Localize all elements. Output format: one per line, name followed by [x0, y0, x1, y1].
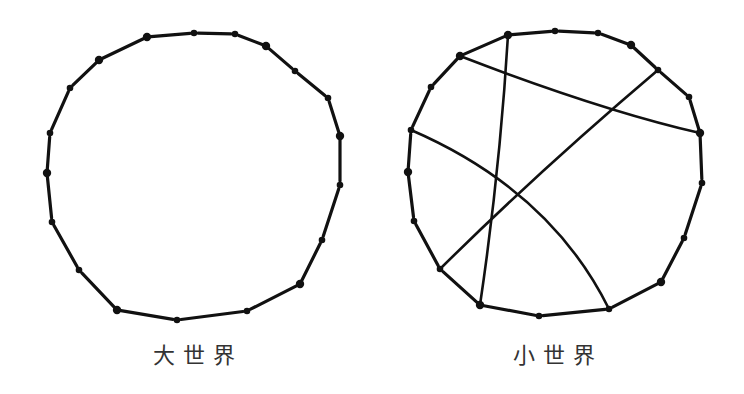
graph-node	[262, 42, 270, 50]
graph-node	[67, 85, 74, 92]
graph-node	[681, 235, 688, 242]
ring-edge	[484, 306, 535, 316]
graph-node	[657, 278, 665, 286]
graph-node	[95, 56, 103, 64]
ring-edge	[82, 273, 114, 307]
small-world-caption: 小世界	[478, 337, 638, 369]
graph-node	[43, 169, 51, 177]
graph-node	[606, 306, 613, 313]
ring-edge	[52, 92, 69, 130]
ring-edge	[47, 137, 49, 169]
ring-edge	[251, 286, 297, 309]
ring-edge	[690, 101, 699, 129]
graph-node	[536, 313, 543, 320]
ring-edge	[151, 33, 190, 36]
ring-edge	[663, 242, 682, 279]
graph-node	[552, 28, 559, 35]
graph-node	[404, 168, 412, 176]
graph-node	[504, 31, 512, 39]
ring-edge	[302, 244, 320, 281]
ring-edge	[239, 35, 263, 44]
graph-node	[319, 237, 326, 244]
large-world-caption: 大世界	[118, 337, 278, 369]
ring-edge	[512, 31, 551, 34]
graph-node	[437, 266, 444, 273]
graph-node	[244, 308, 251, 315]
graph-node	[292, 68, 299, 75]
ring-edge	[413, 91, 430, 127]
graph-node	[337, 182, 344, 189]
graph-node	[456, 52, 464, 60]
ring-edge	[329, 102, 339, 132]
shortcut-edge	[411, 130, 609, 309]
shortcut-edge	[460, 56, 700, 133]
ring-edge	[323, 189, 339, 236]
ring-edge	[181, 312, 243, 320]
network-diagram	[0, 0, 744, 394]
graph-node	[113, 306, 121, 314]
ring-edge	[47, 177, 51, 218]
ring-edge	[443, 272, 477, 303]
graph-node	[191, 30, 198, 37]
graph-node	[696, 129, 704, 137]
graph-node	[49, 219, 56, 226]
graph-node	[47, 130, 54, 137]
graph-node	[174, 317, 181, 324]
graph-node	[143, 33, 151, 41]
ring-edge	[543, 309, 605, 315]
ring-edge	[661, 73, 686, 95]
graph-node	[76, 267, 83, 274]
ring-edge	[634, 48, 655, 68]
ring-edge	[434, 59, 458, 84]
graph-node	[411, 218, 418, 225]
shortcut-edge	[440, 70, 658, 269]
ring-edge	[700, 137, 702, 179]
small-world-graph	[404, 28, 706, 320]
graph-node	[686, 94, 693, 101]
ring-edge	[408, 176, 413, 217]
graph-node	[699, 180, 706, 187]
ring-edge	[408, 134, 410, 168]
graph-node	[428, 84, 435, 91]
large-world-ring-graph	[43, 30, 344, 324]
graph-node	[325, 95, 332, 102]
ring-edge	[559, 31, 594, 33]
ring-edge	[416, 225, 438, 266]
ring-edge	[73, 63, 96, 85]
graph-node	[296, 280, 304, 288]
ring-edge	[54, 225, 77, 266]
graph-node	[408, 127, 415, 134]
graph-node	[232, 31, 239, 38]
ring-edge	[103, 39, 144, 59]
ring-edge	[613, 284, 658, 307]
ring-edge	[298, 74, 325, 96]
ring-edge	[198, 33, 231, 34]
graph-node	[595, 30, 602, 37]
ring-edge	[464, 37, 505, 55]
ring-edge	[602, 34, 627, 43]
graph-node	[655, 67, 662, 74]
graph-node	[336, 132, 344, 140]
ring-edge	[269, 49, 292, 69]
ring-edge	[685, 187, 701, 234]
graph-node	[627, 41, 635, 49]
graph-node	[476, 301, 484, 309]
ring-edge	[121, 311, 173, 320]
